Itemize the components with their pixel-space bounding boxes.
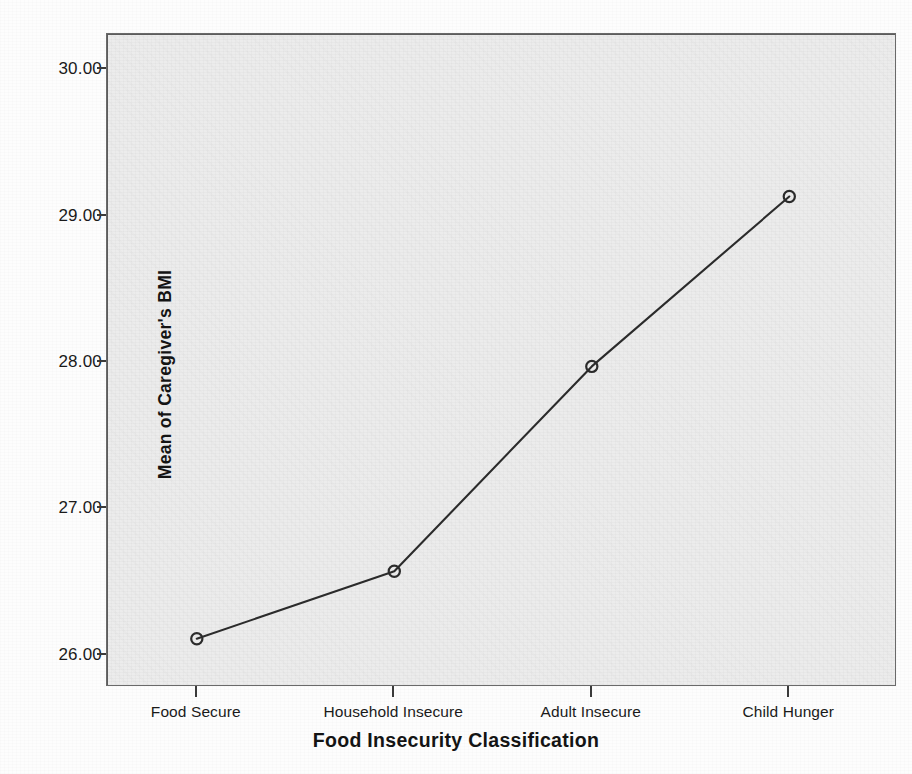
y-axis-tick-label: 26.00 (28, 645, 102, 662)
y-axis-tick-label: 27.00 (28, 499, 102, 516)
x-axis-tick-mark (195, 686, 197, 697)
data-series-line (197, 197, 790, 639)
y-axis-tick-mark (97, 214, 106, 216)
y-axis-tick-mark (97, 506, 106, 508)
y-axis-tick-mark (97, 67, 106, 69)
x-axis-tick-mark (590, 686, 592, 697)
y-axis-tick-mark (97, 360, 106, 362)
y-axis-tick-label: 28.00 (28, 352, 102, 369)
x-axis-title: Food Insecurity Classification (0, 729, 912, 752)
x-axis-tick-label: Adult Insecure (481, 703, 701, 721)
y-axis-title: Mean of Caregiver's BMI (155, 240, 176, 510)
line-chart-figure: 30.0029.0028.0027.0026.00 Mean of Caregi… (0, 0, 912, 774)
x-axis-tick-label: Household Insecure (283, 703, 503, 721)
plot-svg (107, 34, 897, 687)
x-axis-tick-mark (787, 686, 789, 697)
x-axis-tick-label: Child Hunger (678, 703, 898, 721)
y-axis-tick-labels: 30.0029.0028.0027.0026.00 (18, 0, 102, 774)
x-axis-tick-mark (392, 686, 394, 697)
y-axis-tick-mark (97, 653, 106, 655)
y-axis-tick-label: 30.00 (28, 60, 102, 77)
x-axis-tick-label: Food Secure (86, 703, 306, 721)
y-axis-tick-label: 29.00 (28, 206, 102, 223)
data-point-markers (191, 191, 795, 644)
plot-area (106, 33, 896, 686)
